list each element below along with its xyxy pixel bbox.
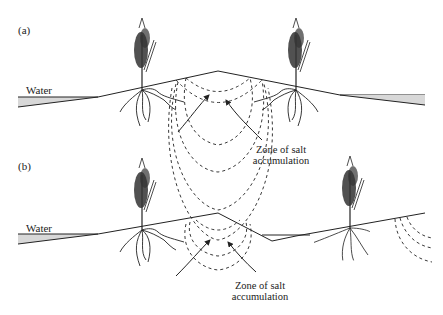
panel-a-zone-label: Zone of salt accumulation — [246, 144, 316, 166]
diagram-canvas — [0, 0, 443, 315]
panel-a-label: (a) — [18, 24, 30, 36]
panel-b — [18, 156, 432, 276]
panel-b-label: (b) — [18, 160, 31, 172]
panel-b-water-label: Water — [26, 222, 52, 234]
panel-a — [18, 18, 425, 240]
panel-a-zone-line2: accumulation — [246, 155, 316, 166]
panel-b-zone-line1: Zone of salt — [225, 280, 295, 291]
panel-b-zone-label: Zone of salt accumulation — [225, 280, 295, 302]
panel-a-water-label: Water — [26, 84, 52, 96]
panel-b-zone-line2: accumulation — [225, 291, 295, 302]
panel-a-zone-line1: Zone of salt — [246, 144, 316, 155]
